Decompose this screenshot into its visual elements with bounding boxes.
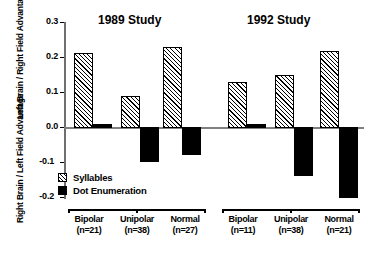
x-axis-tick-1992-right — [358, 209, 360, 213]
bar-1989-unipolar-syllables — [121, 96, 140, 128]
y-tick-label-0.2: 0.2 — [32, 51, 58, 61]
legend-swatch-solid-icon — [58, 186, 67, 195]
bar-1992-normal-dots — [339, 127, 358, 198]
panel-title-1989: 1989 Study — [98, 13, 161, 27]
bar-1989-normal-dots — [182, 127, 201, 155]
y-tick-label--0.2: -0.2 — [28, 191, 54, 201]
x-label-1992-unipolar-n: (n=38) — [264, 225, 318, 236]
legend-item-dot-enumeration: Dot Enumeration — [58, 181, 147, 194]
y-axis-label-bottom: Right Brain / Left Field Advantage — [15, 131, 25, 223]
x-label-1992-unipolar: Unipolar (n=38) — [264, 214, 318, 235]
chart-figure: Left Brain / Right Field Advantage Right… — [0, 0, 371, 258]
x-label-1989-bipolar: Bipolar (n=21) — [62, 214, 116, 235]
x-label-1992-unipolar-name: Unipolar — [274, 214, 308, 224]
y-tick-mark-0.3 — [60, 22, 64, 23]
x-label-1989-unipolar-n: (n=38) — [110, 225, 164, 236]
x-label-1992-normal: Normal (n=21) — [312, 214, 366, 235]
legend-item-syllables: Syllables — [58, 168, 147, 181]
bar-1992-bipolar-dots — [247, 124, 266, 128]
bar-1992-bipolar-syllables — [228, 82, 247, 128]
panel-title-1992: 1992 Study — [247, 13, 310, 27]
bar-1992-unipolar-syllables — [275, 75, 294, 128]
x-label-1989-unipolar-name: Unipolar — [120, 214, 154, 224]
y-tick-mark-0.2 — [60, 57, 64, 58]
x-label-1989-bipolar-n: (n=21) — [62, 225, 116, 236]
y-tick-label--0.1: -0.1 — [28, 156, 54, 166]
y-tick-label-0.3: 0.3 — [32, 16, 58, 26]
x-label-1989-normal-n: (n=27) — [158, 225, 212, 236]
legend: Syllables Dot Enumeration — [58, 168, 147, 194]
y-tick-mark--0.2 — [60, 197, 64, 198]
x-label-1989-unipolar: Unipolar (n=38) — [110, 214, 164, 235]
x-axis-tick-1989-left — [68, 209, 70, 213]
x-label-1989-bipolar-name: Bipolar — [75, 214, 104, 224]
x-label-1992-normal-name: Normal — [324, 214, 353, 224]
x-label-1989-normal-name: Normal — [170, 214, 199, 224]
bar-1989-unipolar-dots — [140, 127, 159, 162]
bar-1989-bipolar-syllables — [74, 53, 93, 128]
x-label-1992-bipolar-name: Bipolar — [229, 214, 258, 224]
x-axis-tick-1992-left — [222, 209, 224, 213]
y-tick-label-0.1: 0.1 — [32, 86, 58, 96]
x-label-1989-normal: Normal (n=27) — [158, 214, 212, 235]
bar-1989-normal-syllables — [163, 47, 182, 128]
bar-1989-bipolar-dots — [93, 124, 112, 128]
x-axis-tick-1989-right — [204, 209, 206, 213]
x-axis-tick-1992-mid — [290, 209, 292, 213]
legend-label-dot-enumeration: Dot Enumeration — [73, 185, 147, 196]
y-tick-mark-0.1 — [60, 92, 64, 93]
y-tick-label-0.0: 0.0 — [32, 121, 58, 131]
bar-1992-unipolar-dots — [294, 127, 313, 176]
bar-1992-normal-syllables — [320, 51, 339, 128]
x-label-1992-bipolar-n: (n=11) — [216, 225, 270, 236]
y-tick-mark--0.1 — [60, 162, 64, 163]
x-label-1992-normal-n: (n=21) — [312, 225, 366, 236]
x-axis-tick-1989-mid — [136, 209, 138, 213]
x-label-1992-bipolar: Bipolar (n=11) — [216, 214, 270, 235]
